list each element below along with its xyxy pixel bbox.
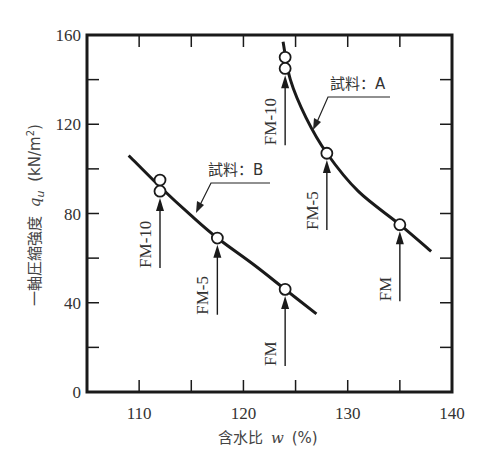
arrow-up-icon (281, 75, 289, 88)
axis-ticks (87, 35, 452, 392)
data-point (280, 63, 291, 74)
series-b-callout: 試料：B (196, 161, 270, 213)
arrow-label: FM (261, 341, 280, 366)
series-a-callout: 試料：A (313, 75, 390, 130)
series-curves (129, 42, 431, 314)
arrow-up-icon (323, 160, 331, 173)
series-b-label: 試料：B (208, 161, 263, 179)
arrow-up-icon (156, 198, 164, 211)
y-tick-label: 160 (56, 26, 82, 45)
x-axis-title: 含水比 w (%) (218, 429, 317, 447)
x-tick-label: 130 (335, 404, 361, 423)
arrow-label: FM-5 (303, 191, 322, 230)
x-tick-label: 120 (231, 404, 257, 423)
arrow-label: FM (376, 277, 395, 302)
series-a-label: 試料：A (330, 75, 386, 93)
arrow-up-icon (396, 231, 404, 244)
arrow-label: FM-10 (261, 98, 280, 145)
data-point (155, 186, 166, 197)
plot-frame (87, 35, 452, 392)
arrowhead-icon (313, 118, 321, 130)
data-point (321, 148, 332, 159)
arrowhead-icon (196, 201, 204, 213)
y-tick-label: 80 (64, 205, 81, 224)
y-tick-label: 40 (64, 294, 81, 313)
arrow-annotations: FM-10FM-5FMFM-10FM-5FM (136, 75, 404, 366)
y-tick-label: 120 (56, 115, 82, 134)
x-tick-label: 110 (127, 404, 152, 423)
data-point (155, 175, 166, 186)
y-tick-label: 0 (73, 383, 82, 402)
data-point (280, 52, 291, 63)
data-point (212, 233, 223, 244)
y-axis-title: 一軸圧縮強度 qu (kN/m2) (25, 124, 48, 306)
arrow-label: FM-5 (193, 276, 212, 315)
arrow-up-icon (281, 296, 289, 309)
data-point (394, 219, 405, 230)
x-tick-label: 140 (439, 404, 465, 423)
arrow-up-icon (213, 245, 221, 258)
chart-canvas: 11012013014004080120160 FM-10FM-5FMFM-10… (0, 0, 491, 467)
data-point (280, 284, 291, 295)
arrow-label: FM-10 (136, 221, 155, 268)
